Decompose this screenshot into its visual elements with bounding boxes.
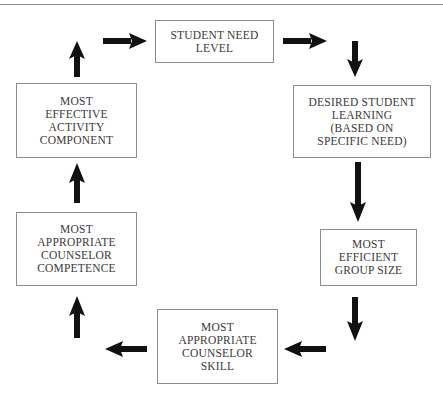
node-label: STUDENT NEED LEVEL bbox=[170, 29, 258, 55]
node-label: MOST APPROPRIATE COUNSELOR SKILL bbox=[178, 321, 256, 373]
arrow-up-icon bbox=[69, 163, 85, 203]
arrow-down-icon bbox=[347, 41, 363, 77]
header-rule bbox=[0, 4, 443, 5]
arrow-left-icon bbox=[105, 341, 147, 357]
node-label: MOST EFFECTIVE ACTIVITY COMPONENT bbox=[40, 95, 113, 147]
arrow-up-icon bbox=[69, 41, 85, 77]
arrow-right-icon bbox=[283, 33, 327, 49]
node-most-effective-activity-component: MOST EFFECTIVE ACTIVITY COMPONENT bbox=[16, 83, 137, 158]
node-label: DESIRED STUDENT LEARNING (BASED ON SPECI… bbox=[309, 96, 416, 148]
node-desired-student-learning: DESIRED STUDENT LEARNING (BASED ON SPECI… bbox=[293, 85, 431, 158]
arrow-right-icon bbox=[103, 33, 147, 49]
arrow-left-icon bbox=[284, 341, 326, 357]
arrow-down-icon bbox=[350, 162, 366, 222]
arrow-up-icon bbox=[69, 296, 85, 338]
node-most-efficient-group-size: MOST EFFICIENT GROUP SIZE bbox=[320, 229, 417, 286]
arrow-down-icon bbox=[347, 297, 363, 341]
node-student-need-level: STUDENT NEED LEVEL bbox=[155, 20, 274, 63]
node-most-appropriate-counselor-competence: MOST APPROPRIATE COUNSELOR COMPETENCE bbox=[16, 212, 137, 286]
node-most-appropriate-counselor-skill: MOST APPROPRIATE COUNSELOR SKILL bbox=[157, 309, 278, 384]
node-label: MOST APPROPRIATE COUNSELOR COMPETENCE bbox=[37, 223, 116, 275]
node-label: MOST EFFICIENT GROUP SIZE bbox=[335, 238, 403, 277]
